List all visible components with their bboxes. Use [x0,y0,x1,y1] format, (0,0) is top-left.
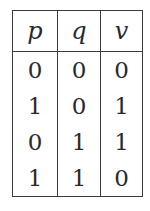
header-p: p [13,11,58,52]
cell: 0 [101,52,143,89]
cell: 0 [13,52,58,89]
truth-table: p q v 0 0 0 1 0 1 0 1 1 1 1 0 [12,10,143,197]
cell: 1 [101,88,143,124]
table-row: 1 0 1 [13,88,143,124]
header-q: q [58,11,101,52]
header-v: v [101,11,143,52]
cell: 0 [13,124,58,160]
table-row: 0 0 0 [13,52,143,89]
cell: 0 [101,160,143,197]
table-row: 0 1 1 [13,124,143,160]
table-row: 1 1 0 [13,160,143,197]
cell: 1 [101,124,143,160]
cell: 1 [58,124,101,160]
cell: 1 [13,160,58,197]
cell: 1 [58,160,101,197]
cell: 0 [58,52,101,89]
cell: 1 [13,88,58,124]
header-row: p q v [13,11,143,52]
cell: 0 [58,88,101,124]
